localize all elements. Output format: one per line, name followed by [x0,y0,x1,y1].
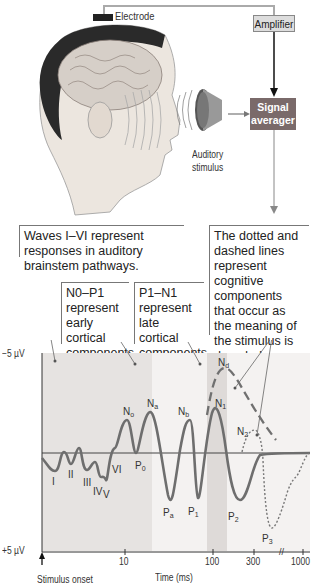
x-axis-label: Time (ms) [155,572,193,583]
stimulus-onset-label: Stimulus onset [37,574,93,585]
late-cortical-shaded-region [207,353,227,551]
sound-waves-icon [177,90,192,130]
callout-brainstem: Waves I–VI represent responses in audito… [19,225,184,257]
stimulus-label: Auditory stimulus [192,148,226,174]
peak-label-I: I [52,476,55,487]
amplifier-box: Amplifier [253,15,295,32]
callout-early-cortical: N0–P1 represent early cortical component… [61,282,129,344]
signal-averager-box: Signal averager [250,98,296,130]
stimulus-onset-arrow-icon [39,552,45,559]
x-tick-10: 10 [119,556,128,567]
x-tick-1000: 1000 [291,556,310,567]
ear-icon [88,102,112,138]
electrode-label: Electrode [115,10,155,22]
x-tick-100: 100 [205,556,219,567]
peak-label-II: II [68,469,74,480]
callout-late-cortical: P1–N1 represent late cortical components… [134,282,204,344]
arrow-down-icon [270,206,278,214]
electrode-icon [93,14,113,21]
peak-label-IV: IV [93,486,103,497]
x-tick-300: 300 [246,556,260,567]
callout-cognitive: The dotted and dashed lines represent co… [209,225,309,335]
head-illustration [40,25,192,215]
peak-label-VI: VI [112,464,121,475]
arrow-down-icon [270,88,278,97]
y-axis-bottom-label: +5 µV [2,545,25,556]
speaker-icon [195,89,222,131]
evoked-potential-chart: // I II III IV V VI No P0 Na Pa Nb P1 N1… [0,340,325,585]
brain-icon [58,40,162,110]
y-axis-top-label: −5 µV [2,348,25,359]
peak-label-III: III [83,477,91,488]
peak-label-V: V [103,489,110,500]
axis-break-icon: // [279,547,285,557]
